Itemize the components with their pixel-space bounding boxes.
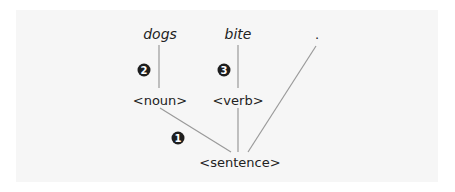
nonterminal-sentence: <sentence>	[199, 155, 280, 171]
nonterminal-noun: <noun>	[133, 93, 187, 109]
nonterminal-verb: <verb>	[212, 93, 263, 109]
callout-marker-2: 2	[138, 64, 151, 77]
callout-marker-1: 1	[172, 132, 185, 145]
callout-marker-3: 3	[218, 64, 231, 77]
terminal-bite: bite	[225, 26, 252, 42]
terminal-dogs: dogs	[143, 26, 177, 42]
edge-noun-sentence	[160, 108, 231, 152]
terminal-period: .	[315, 27, 319, 43]
